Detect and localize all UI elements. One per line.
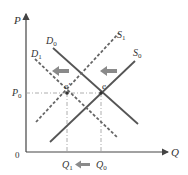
p0-label: P0 bbox=[11, 87, 22, 100]
d0-label: D0 bbox=[45, 35, 57, 48]
s0-label: S0 bbox=[133, 47, 142, 60]
s1-label: S1 bbox=[117, 29, 126, 42]
guide-lines bbox=[26, 93, 101, 152]
supply-curve-s0 bbox=[50, 61, 135, 142]
supply-curve-s1 bbox=[36, 33, 119, 122]
e-prime-label: e′ bbox=[64, 81, 71, 91]
e-label: e bbox=[102, 81, 106, 91]
q1-label: Q1 bbox=[62, 159, 73, 172]
y-axis-label: P bbox=[13, 14, 21, 26]
equilibrium-point-e-prime bbox=[65, 91, 69, 95]
demand-shift-arrow-icon bbox=[52, 66, 69, 76]
x-axis-label: Q bbox=[171, 146, 179, 158]
equilibrium-point-e bbox=[99, 91, 103, 95]
q0-label: Q0 bbox=[96, 159, 107, 172]
origin-label: 0 bbox=[15, 150, 20, 160]
supply-shift-arrow-icon bbox=[100, 66, 117, 76]
supply-demand-diagram: P Q 0 D0 D1 S0 S1 e e′ P0 Q1 Q0 bbox=[0, 0, 188, 175]
quantity-shift-arrow-icon bbox=[75, 161, 90, 169]
